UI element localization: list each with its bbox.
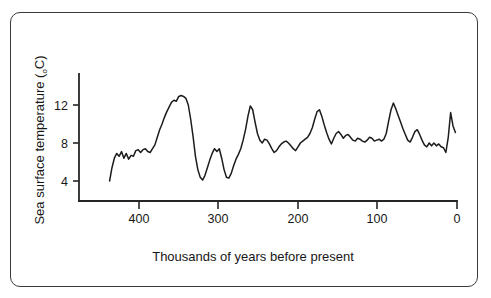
x-tick-group — [139, 201, 457, 209]
x-axis-title: Thousands of years before present — [152, 249, 354, 264]
x-tick-label-100: 100 — [367, 212, 388, 226]
y-axis-title-group: Sea surface temperature (oC) — [32, 55, 49, 224]
sea-surface-temperature-chart: 12 8 4 400 300 200 100 0 Thousands of ye… — [0, 0, 491, 298]
x-tick-label-0: 0 — [454, 212, 461, 226]
y-tick-label-8: 8 — [61, 137, 68, 151]
y-axis-title-main: Sea surface temperature ( — [32, 73, 47, 225]
x-tick-label-400: 400 — [129, 212, 150, 226]
y-tick-label-4: 4 — [61, 175, 68, 189]
x-tick-label-200: 200 — [288, 212, 309, 226]
chart-area: 12 8 4 400 300 200 100 0 Thousands of ye… — [0, 0, 491, 298]
y-tick-label-12: 12 — [54, 99, 68, 113]
x-tick-label-300: 300 — [208, 212, 229, 226]
y-axis-title: Sea surface temperature (oC) — [32, 55, 49, 224]
y-axis-title-unit: C) — [32, 55, 47, 69]
temperature-series-line — [110, 96, 456, 182]
